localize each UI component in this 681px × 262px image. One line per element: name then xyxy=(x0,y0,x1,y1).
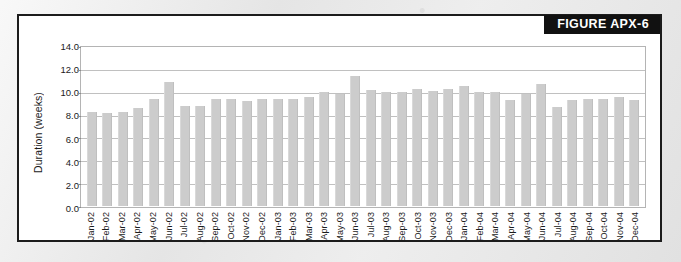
x-axis-tick-label: May-02 xyxy=(148,212,158,243)
x-axis-tick-label: Jul-02 xyxy=(179,212,189,237)
x-axis-tick-label: Aug-03 xyxy=(381,212,391,242)
bar[interactable] xyxy=(397,92,407,206)
bar[interactable] xyxy=(149,99,159,206)
bar[interactable] xyxy=(335,94,345,206)
bar[interactable] xyxy=(133,108,143,206)
bar[interactable] xyxy=(102,113,112,206)
x-axis-tick-label: Dec-02 xyxy=(257,212,267,242)
x-label-slot: Jun-02 xyxy=(161,210,177,256)
bar[interactable] xyxy=(257,99,267,206)
bar[interactable] xyxy=(350,76,360,206)
x-axis-tick-label: Oct-02 xyxy=(226,212,236,240)
x-label-slot: Mar-02 xyxy=(114,210,130,256)
bar-slot xyxy=(379,48,395,206)
x-label-slot: Mar-03 xyxy=(301,210,317,256)
x-label-slot: Apr-04 xyxy=(503,210,519,256)
bar-slot xyxy=(193,48,209,206)
bar-slot xyxy=(627,48,643,206)
bar-slot xyxy=(363,48,379,206)
bar-chart: Duration (weeks) 0.02.04.06.08.010.012.0… xyxy=(19,16,660,240)
x-label-slot: Jan-04 xyxy=(457,210,473,256)
x-label-slot: Aug-02 xyxy=(192,210,208,256)
bar[interactable] xyxy=(428,91,438,206)
x-axis-tick-label: Aug-02 xyxy=(195,212,205,242)
y-axis-tick-label: 4.0 xyxy=(66,156,79,167)
bar[interactable] xyxy=(242,101,252,206)
bar-slot xyxy=(611,48,627,206)
bar[interactable] xyxy=(474,92,484,206)
x-axis-tick-labels: Jan-02Feb-02Mar-02Apr-02May-02Jun-02Jul-… xyxy=(81,210,645,256)
x-axis-tick-label: Mar-02 xyxy=(117,212,127,241)
x-axis-tick-label: Jul-03 xyxy=(366,212,376,237)
x-label-slot: Sep-04 xyxy=(581,210,597,256)
x-axis-tick-label: Dec-03 xyxy=(444,212,454,242)
bar[interactable] xyxy=(583,99,593,206)
x-label-slot: Sep-02 xyxy=(208,210,224,256)
bar[interactable] xyxy=(304,97,314,206)
x-label-slot: Mar-04 xyxy=(488,210,504,256)
x-axis-tick-label: Feb-04 xyxy=(475,212,485,241)
bar-slot xyxy=(332,48,348,206)
x-label-slot: Feb-03 xyxy=(285,210,301,256)
bar[interactable] xyxy=(521,94,531,206)
x-axis-tick-label: Sep-02 xyxy=(210,212,220,242)
bar-slot xyxy=(131,48,147,206)
bar-slot xyxy=(549,48,565,206)
bar[interactable] xyxy=(443,89,453,206)
x-label-slot: Jul-02 xyxy=(176,210,192,256)
x-axis-tick-label: Jul-04 xyxy=(553,212,563,237)
x-label-slot: Oct-04 xyxy=(597,210,613,256)
bar-slot xyxy=(301,48,317,206)
bar[interactable] xyxy=(552,107,562,206)
bar[interactable] xyxy=(87,112,97,206)
bar-slot xyxy=(565,48,581,206)
bar-slot xyxy=(177,48,193,206)
bar[interactable] xyxy=(412,89,422,206)
x-label-slot: Sep-03 xyxy=(394,210,410,256)
x-label-slot: Jan-02 xyxy=(83,210,99,256)
x-axis-tick-label: Feb-03 xyxy=(288,212,298,241)
bar[interactable] xyxy=(164,82,174,206)
bar[interactable] xyxy=(614,97,624,206)
bar-slot xyxy=(503,48,519,206)
bar[interactable] xyxy=(505,100,515,206)
bar[interactable] xyxy=(211,99,221,206)
x-axis-tick-label: May-03 xyxy=(335,212,345,243)
x-label-slot: Nov-02 xyxy=(239,210,255,256)
x-label-slot: May-03 xyxy=(332,210,348,256)
x-label-slot: May-04 xyxy=(519,210,535,256)
bar[interactable] xyxy=(459,86,469,206)
bar[interactable] xyxy=(381,92,391,206)
bar[interactable] xyxy=(536,84,546,206)
y-axis-tick-label: 10.0 xyxy=(61,87,80,98)
bar[interactable] xyxy=(226,99,236,206)
bar[interactable] xyxy=(319,92,329,206)
bar[interactable] xyxy=(273,99,283,206)
bar-slot xyxy=(146,48,162,206)
bar[interactable] xyxy=(629,100,639,206)
bar[interactable] xyxy=(118,112,128,206)
bar-slot xyxy=(270,48,286,206)
bar[interactable] xyxy=(598,99,608,206)
bar[interactable] xyxy=(195,106,205,206)
x-axis-tick-label: Apr-02 xyxy=(132,212,142,240)
bar[interactable] xyxy=(567,100,577,206)
bar[interactable] xyxy=(180,106,190,206)
bar-slot xyxy=(286,48,302,206)
x-label-slot: Dec-03 xyxy=(441,210,457,256)
x-label-slot: Jun-03 xyxy=(348,210,364,256)
bar-slot xyxy=(534,48,550,206)
page-background: FIGURE APX-6 Duration (weeks) 0.02.04.06… xyxy=(0,0,681,262)
bar[interactable] xyxy=(490,92,500,206)
x-axis-tick-label: Mar-04 xyxy=(490,212,500,241)
x-axis-tick-label: Feb-02 xyxy=(101,212,111,241)
bar[interactable] xyxy=(288,99,298,206)
x-axis-tick-label: Jun-02 xyxy=(164,212,174,240)
x-axis-tick-label: Jan-03 xyxy=(273,212,283,240)
bar-slot xyxy=(255,48,271,206)
y-axis-title: Duration (weeks) xyxy=(32,78,46,188)
figure-frame: FIGURE APX-6 Duration (weeks) 0.02.04.06… xyxy=(17,14,662,242)
x-axis-tick-label: Jun-04 xyxy=(537,212,547,240)
bar[interactable] xyxy=(366,90,376,206)
x-axis-tick-label: Oct-03 xyxy=(413,212,423,240)
